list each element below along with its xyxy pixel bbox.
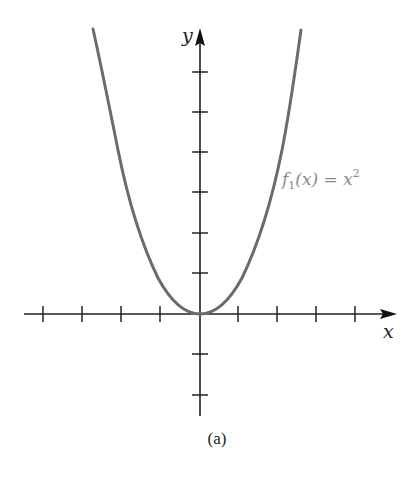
y-axis-label: y — [181, 24, 193, 46]
x-axis-label: x — [383, 320, 394, 342]
parabola-chart: y x f1(x) = x2 — [0, 0, 419, 484]
curve-label: f1(x) = x2 — [280, 167, 360, 192]
figure-caption: (a) — [0, 429, 419, 449]
